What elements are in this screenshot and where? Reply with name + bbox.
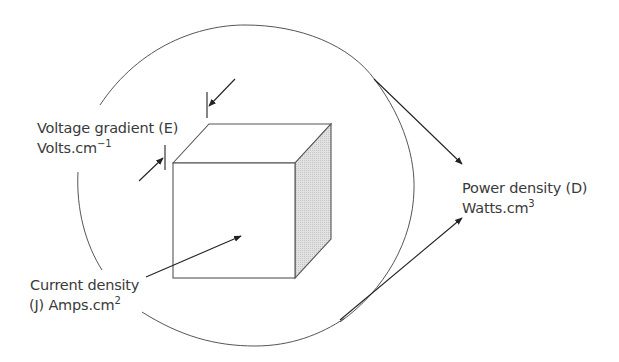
arrow-upper — [209, 79, 235, 106]
circle-arc-right — [340, 80, 414, 322]
circle-arc-bottom — [142, 312, 345, 346]
power-line2: Watts.cm3 — [462, 198, 535, 216]
circle-arc-top — [100, 25, 375, 105]
voltage-unit: Volts.cm — [37, 140, 97, 156]
power-line1: Power density (D) — [462, 180, 587, 196]
current-line2: (J) Amps.cm2 — [29, 295, 121, 313]
current-unit-exponent: 2 — [115, 295, 121, 306]
current-line1: Current density — [30, 277, 140, 293]
diagram-canvas: Voltage gradient (E) Volts.cm−1 Current … — [0, 0, 619, 362]
power-unit-exponent: 3 — [528, 198, 534, 209]
current-unit: (J) Amps.cm — [29, 297, 115, 313]
arrow-lower — [139, 158, 163, 181]
diagram-svg: Voltage gradient (E) Volts.cm−1 Current … — [0, 0, 619, 362]
power-density-arrow-top — [374, 79, 462, 164]
cube-front-face — [173, 163, 295, 278]
power-density-arrow-bottom — [340, 218, 462, 320]
label-current-density: Current density (J) Amps.cm2 — [29, 277, 140, 313]
voltage-unit-exponent: −1 — [97, 138, 111, 149]
label-power-density: Power density (D) Watts.cm3 — [462, 180, 587, 216]
circle-arc-left — [78, 172, 102, 270]
label-voltage-gradient: Voltage gradient (E) Volts.cm−1 — [37, 120, 178, 156]
power-unit: Watts.cm — [462, 200, 528, 216]
voltage-line1: Voltage gradient (E) — [37, 120, 178, 136]
voltage-line2: Volts.cm−1 — [37, 138, 111, 156]
